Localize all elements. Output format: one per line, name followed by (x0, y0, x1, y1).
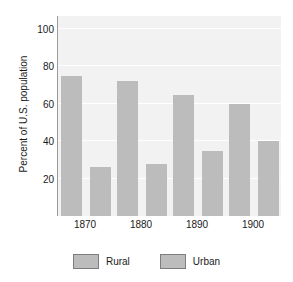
legend-entry-urban[interactable]: Urban (160, 254, 220, 269)
bar-rural-1880[interactable] (117, 81, 138, 216)
bar-urban-1890[interactable] (202, 151, 223, 216)
y-axis-tick-label: 100 (28, 24, 54, 35)
plot-area (57, 16, 281, 216)
chart-legend: RuralUrban (0, 248, 293, 274)
bar-group (170, 16, 226, 216)
x-axis-tick-label: 1900 (242, 219, 264, 230)
y-axis-tick-label: 40 (28, 136, 54, 147)
bar-urban-1880[interactable] (146, 164, 167, 216)
bar-rural-1890[interactable] (173, 95, 194, 216)
legend-swatch-rural (73, 254, 99, 269)
x-axis-tick-label: 1880 (130, 219, 152, 230)
legend-label-urban: Urban (193, 256, 220, 267)
y-axis-tick-labels: 20406080100 (26, 0, 54, 282)
y-axis-tick-label: 60 (28, 98, 54, 109)
bar-urban-1900[interactable] (258, 141, 279, 216)
y-axis-tick-label: 80 (28, 61, 54, 72)
legend-label-rural: Rural (106, 256, 130, 267)
x-axis-tick-label: 1870 (74, 219, 96, 230)
x-axis-tick-label: 1890 (186, 219, 208, 230)
bar-group (58, 16, 114, 216)
y-axis-tick-label: 20 (28, 173, 54, 184)
bar-rural-1900[interactable] (229, 104, 250, 216)
bar-urban-1870[interactable] (90, 167, 111, 216)
bar-chart-figure: Percent of U.S. population 20406080100 1… (0, 0, 293, 282)
bar-group (226, 16, 282, 216)
bar-group (114, 16, 170, 216)
legend-entry-rural[interactable]: Rural (73, 254, 130, 269)
bar-rural-1870[interactable] (61, 76, 82, 216)
legend-swatch-urban (160, 254, 186, 269)
x-axis-tick-labels: 1870188018901900 (57, 219, 281, 235)
